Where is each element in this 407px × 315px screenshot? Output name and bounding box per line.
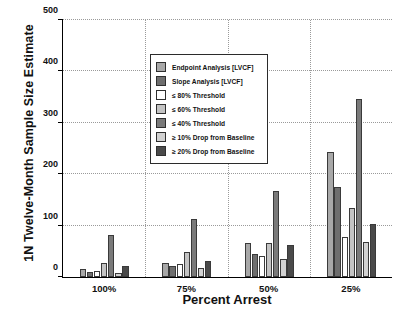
legend-swatch [156, 76, 166, 86]
legend-item: Slope Analysis [LVCF] [156, 74, 261, 88]
legend-item: ≤ 80% Threshold [156, 88, 261, 102]
bar [356, 99, 362, 277]
legend-label: ≥ 10% Drop from Baseline [172, 134, 255, 141]
legend-label: ≥ 20% Drop from Baseline [172, 148, 255, 155]
bar [266, 243, 272, 277]
legend-item: ≥ 20% Drop from Baseline [156, 144, 261, 158]
bar [184, 252, 190, 277]
bar [342, 237, 348, 277]
bar [122, 266, 128, 277]
legend-swatch [156, 62, 166, 72]
bar [370, 224, 376, 277]
legend-swatch [156, 104, 166, 114]
bar [287, 245, 293, 277]
bar [198, 268, 204, 277]
legend-label: ≤ 40% Threshold [172, 120, 225, 127]
bar [252, 254, 258, 277]
legend-label: ≤ 60% Threshold [172, 106, 225, 113]
y-axis-tick-label: 500 [18, 5, 63, 15]
bar [259, 256, 265, 277]
bar [108, 235, 114, 277]
y-axis-tick-label: 200 [18, 159, 63, 169]
bar [115, 273, 121, 277]
bar [101, 263, 107, 277]
bar [80, 269, 86, 277]
chart-legend: Endpoint Analysis [LVCF]Slope Analysis [… [150, 54, 268, 164]
y-axis-title: 1N Twelve-Month Sample Size Estimate [20, 7, 38, 279]
y-axis-tick-label: 0 [18, 262, 63, 272]
legend-label: Endpoint Analysis [LVCF] [172, 64, 253, 71]
bar-group [311, 20, 394, 277]
bar [363, 242, 369, 277]
bar [327, 152, 333, 277]
legend-item: ≤ 40% Threshold [156, 116, 261, 130]
bar [169, 266, 175, 277]
bar [334, 187, 340, 277]
bar [280, 259, 286, 277]
legend-swatch [156, 132, 166, 142]
bar [191, 219, 197, 277]
legend-label: Slope Analysis [LVCF] [172, 78, 243, 85]
bar [349, 208, 355, 277]
y-axis-tick-label: 300 [18, 108, 63, 118]
bar [177, 264, 183, 277]
legend-swatch [156, 146, 166, 156]
legend-swatch [156, 118, 166, 128]
bar [245, 243, 251, 277]
bar [273, 191, 279, 277]
legend-item: ≥ 10% Drop from Baseline [156, 130, 261, 144]
bar [205, 261, 211, 278]
bar [87, 272, 93, 277]
legend-swatch [156, 90, 166, 100]
bar-chart-figure: 1N Twelve-Month Sample Size Estimate 010… [0, 0, 407, 315]
x-axis-title: Percent Arrest [62, 292, 392, 307]
y-axis-tick-label: 400 [18, 56, 63, 66]
legend-label: ≤ 80% Threshold [172, 92, 225, 99]
bar-group [63, 20, 146, 277]
bar [162, 263, 168, 277]
legend-item: ≤ 60% Threshold [156, 102, 261, 116]
bar [94, 271, 100, 277]
legend-item: Endpoint Analysis [LVCF] [156, 60, 261, 74]
y-axis-tick-label: 100 [18, 211, 63, 221]
plot-area: 0100200300400500 100%75%50%25% Endpoint … [62, 20, 392, 278]
